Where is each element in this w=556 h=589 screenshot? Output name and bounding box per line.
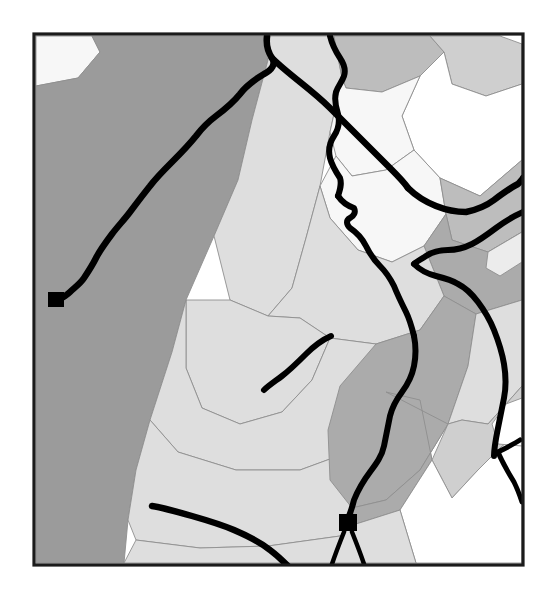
thematic-map-svg [0, 0, 556, 589]
city-marker-west-square-icon[interactable] [48, 292, 64, 307]
city-marker-south-square-icon[interactable] [339, 514, 357, 531]
region-polygons-layer [36, 36, 522, 563]
map-canvas [0, 0, 556, 589]
city-marker-west[interactable] [48, 292, 64, 307]
city-marker-south[interactable] [339, 514, 357, 531]
